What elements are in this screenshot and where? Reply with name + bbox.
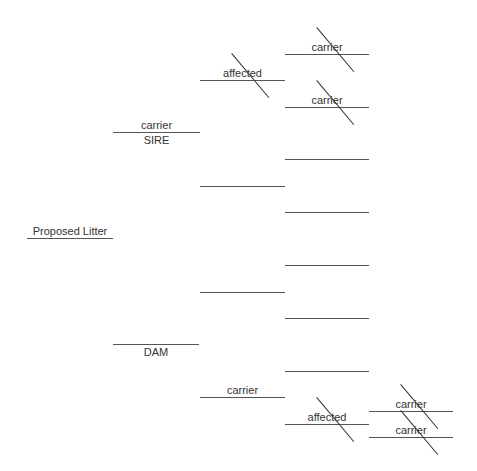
slot-line — [285, 371, 369, 372]
slot-line — [285, 318, 369, 319]
slot-label-above: carrier — [285, 41, 369, 53]
slot-label-above: carrier — [113, 119, 200, 131]
slot-label-above: affected — [200, 67, 285, 79]
slot-line — [285, 424, 369, 425]
slot-label-above: carrier — [369, 398, 453, 410]
slot-line — [369, 437, 453, 438]
slot-label-above: affected — [285, 411, 369, 423]
slot-line — [285, 212, 369, 213]
slot-label-above: carrier — [285, 94, 369, 106]
slot-line — [369, 411, 453, 412]
slot-line — [200, 292, 285, 293]
slot-label-above: carrier — [200, 384, 285, 396]
slot-line — [285, 159, 369, 160]
slot-line — [200, 186, 285, 187]
slot-line — [285, 54, 369, 55]
slot-label-below: DAM — [113, 346, 199, 358]
slot-label-above: Proposed Litter — [27, 225, 113, 237]
slot-line — [200, 80, 285, 81]
slot-line — [285, 265, 369, 266]
slot-line — [200, 397, 285, 398]
slot-line — [113, 344, 199, 345]
slot-line — [27, 238, 113, 239]
pedigree-chart: Proposed LittercarrierSIREDAMaffectedcar… — [0, 0, 477, 471]
slot-line — [113, 132, 200, 133]
slot-label-below: SIRE — [113, 134, 200, 146]
slot-line — [285, 107, 369, 108]
slot-label-above: carrier — [369, 424, 453, 436]
